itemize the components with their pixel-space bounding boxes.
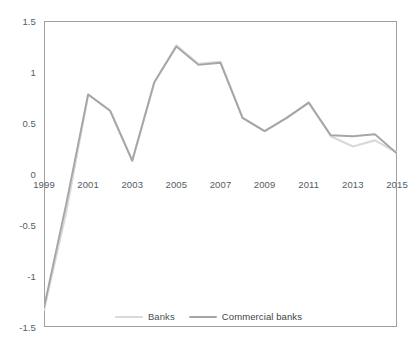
x-axis-tick-label: 2015 [386,179,408,190]
legend-item-banks[interactable]: Banks [115,311,175,322]
x-axis-tick-label: 1999 [33,179,55,190]
legend-item-commercial-banks[interactable]: Commercial banks [189,311,302,322]
x-axis-tick-label: 2013 [342,179,364,190]
x-axis-tick-label: 2009 [254,179,276,190]
legend-label: Banks [148,311,175,322]
legend-swatch-icon [189,316,217,318]
legend-label: Commercial banks [222,311,302,322]
x-axis-tick-label: 2003 [121,179,143,190]
x-axis-tick-label: 2005 [166,179,188,190]
x-axis: 199920012003200520072009201120132015 [0,0,417,348]
x-axis-tick-label: 2007 [210,179,232,190]
chart-legend: BanksCommercial banks [0,311,417,322]
x-axis-tick-label: 2011 [298,179,319,190]
x-axis-tick-label: 2001 [77,179,99,190]
legend-swatch-icon [115,316,143,318]
line-chart: 1.510.50-0.5-1-1.5 199920012003200520072… [0,0,417,348]
